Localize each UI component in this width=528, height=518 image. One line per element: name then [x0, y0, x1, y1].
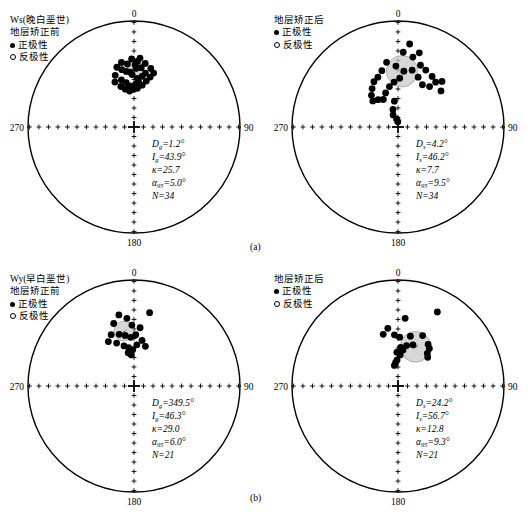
- open-circle-icon: [10, 313, 16, 319]
- data-point-normal-polarity: [400, 68, 407, 75]
- data-point-normal-polarity: [137, 324, 144, 331]
- statistic-value: =9.5°: [428, 178, 450, 188]
- axis-east-label: 90: [508, 123, 518, 133]
- statistic-row: N=21: [152, 449, 194, 461]
- data-point-normal-polarity: [112, 72, 119, 79]
- statistic-value: =9.3°: [428, 437, 450, 447]
- statistic-value: =12.8: [421, 424, 444, 434]
- axis-north-label: 0: [396, 9, 401, 19]
- legend-entry: 正极性: [10, 298, 69, 310]
- statistic-value: =5.0°: [164, 178, 186, 188]
- axis-north-label: 0: [396, 268, 401, 278]
- data-point-normal-polarity: [426, 83, 433, 90]
- statistic-value: =21: [158, 450, 174, 460]
- filled-circle-icon: [10, 302, 15, 307]
- legend-label: 反极性: [19, 51, 49, 63]
- data-point-normal-polarity: [124, 61, 131, 68]
- statistic-row: Ds=4.2°: [416, 138, 450, 151]
- filled-circle-icon: [10, 43, 15, 48]
- data-point-normal-polarity: [407, 333, 414, 340]
- statistic-row: Is=56.7°: [416, 410, 452, 423]
- statistic-value: =21: [422, 450, 438, 460]
- statistic-row: Ig=46.3°: [152, 410, 194, 423]
- filled-circle-icon: [274, 30, 279, 35]
- statistic-row: κ=7.7: [416, 164, 450, 176]
- data-point-normal-polarity: [396, 75, 403, 82]
- data-point-normal-polarity: [409, 67, 416, 74]
- statistic-row: Dg=349.5°: [152, 397, 194, 410]
- axis-west-label: 270: [10, 382, 25, 392]
- statistic-symbol: D: [152, 139, 159, 149]
- data-point-normal-polarity: [142, 60, 149, 67]
- axis-west-label: 270: [10, 123, 25, 133]
- data-point-normal-polarity: [391, 98, 398, 105]
- statistic-row: Is=46.2°: [416, 151, 450, 164]
- axis-east-label: 90: [244, 123, 254, 133]
- data-point-normal-polarity: [132, 331, 139, 338]
- legend-entry: 反极性: [10, 310, 69, 322]
- data-point-normal-polarity: [396, 334, 403, 341]
- axis-north-label: 0: [132, 268, 137, 278]
- data-point-normal-polarity: [113, 340, 120, 347]
- statistic-subscript: g: [159, 143, 162, 150]
- data-point-normal-polarity: [378, 67, 385, 74]
- statistic-row: α95=5.0°: [152, 177, 186, 190]
- legend-entry: 反极性: [274, 298, 324, 310]
- statistic-row: α95=6.0°: [152, 436, 194, 449]
- data-point-normal-polarity: [394, 118, 401, 125]
- data-point-normal-polarity: [123, 315, 130, 322]
- statistic-symbol: D: [152, 398, 159, 408]
- data-point-normal-polarity: [438, 88, 445, 95]
- statistic-row: N=21: [416, 449, 452, 461]
- data-point-normal-polarity: [128, 322, 135, 329]
- statistic-value: =56.7°: [422, 411, 449, 421]
- legend-label: 反极性: [19, 310, 49, 322]
- data-point-normal-polarity: [434, 309, 441, 316]
- data-point-normal-polarity: [391, 79, 398, 86]
- data-point-normal-polarity: [416, 49, 423, 56]
- legend-label: 正极性: [282, 285, 312, 297]
- data-point-normal-polarity: [402, 315, 409, 322]
- axis-south-label: 180: [127, 497, 142, 507]
- data-point-normal-polarity: [382, 90, 389, 97]
- data-point-normal-polarity: [116, 331, 123, 338]
- statistic-value: =46.2°: [422, 152, 449, 162]
- legend-label: 正极性: [18, 39, 48, 51]
- data-point-normal-polarity: [369, 85, 376, 92]
- panel-title-line: Wy(早白垩世): [10, 273, 69, 285]
- statistic-value: =34: [158, 191, 174, 201]
- data-point-normal-polarity: [105, 338, 112, 345]
- legend-wy-before: Wy(早白垩世)地层矫正前正极性反极性: [10, 273, 69, 323]
- statistic-subscript: g: [155, 156, 158, 163]
- legend-label: 反极性: [283, 298, 313, 310]
- data-point-group: [112, 55, 157, 95]
- statistic-value: =43.9°: [158, 152, 185, 162]
- data-point-normal-polarity: [112, 79, 119, 86]
- axis-south-label: 180: [391, 497, 406, 507]
- statistic-subscript: s: [419, 415, 422, 422]
- legend-ws-after: 地层矫正后正极性反极性: [274, 14, 324, 51]
- legend-entry: 正极性: [274, 26, 324, 38]
- statistic-row: Ds=24.2°: [416, 397, 452, 410]
- data-point-normal-polarity: [133, 341, 140, 348]
- data-point-normal-polarity: [115, 312, 122, 319]
- data-point-normal-polarity: [137, 55, 144, 62]
- statistic-row: κ=29.0: [152, 423, 194, 435]
- panel-ws-after: 018090270地层矫正后正极性反极性Ds=4.2°Is=46.2°κ=7.7…: [264, 0, 528, 259]
- data-point-normal-polarity: [113, 64, 120, 71]
- legend-entry: 正极性: [274, 285, 324, 297]
- axis-west-label: 270: [274, 123, 289, 133]
- statistics-block-ws-after: Ds=4.2°Is=46.2°κ=7.7α95=9.5°N=34: [416, 138, 450, 202]
- legend-entry: 反极性: [10, 51, 69, 63]
- open-circle-icon: [274, 301, 280, 307]
- data-point-normal-polarity: [415, 74, 422, 81]
- axis-east-label: 90: [508, 382, 518, 392]
- legend-wy-after: 地层矫正后正极性反极性: [274, 273, 324, 310]
- filled-circle-icon: [274, 289, 279, 294]
- panel-wy-after: 018090270地层矫正后正极性反极性Ds=24.2°Is=56.7°κ=12…: [264, 259, 528, 518]
- data-point-normal-polarity: [383, 59, 390, 66]
- statistic-value: =1.2°: [162, 139, 184, 149]
- data-point-normal-polarity: [393, 349, 400, 356]
- data-point-normal-polarity: [108, 331, 115, 338]
- data-point-normal-polarity: [422, 67, 429, 74]
